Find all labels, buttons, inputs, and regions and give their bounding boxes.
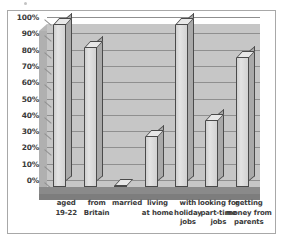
y-axis-tick-label: 20%	[22, 143, 39, 152]
x-axis-label-line: money from	[226, 209, 272, 219]
x-axis-label-7: gettingmoney fromparents	[226, 199, 272, 228]
y-axis-tick-label: 80%	[22, 46, 39, 55]
bar-front-face	[205, 120, 218, 187]
bar-chart-plot-area: 100%90%80%70%60%50%40%30%20%10%0%	[16, 17, 268, 197]
bar-6[interactable]	[205, 120, 218, 187]
bar-3[interactable]	[114, 185, 127, 187]
bar-2[interactable]	[84, 47, 97, 187]
scan-artifact-speck	[24, 2, 27, 5]
bar-front-face	[236, 57, 249, 187]
bar-side-face	[218, 109, 224, 181]
bar-side-face	[249, 46, 255, 181]
gridline-back-segment	[47, 33, 260, 34]
gridline-back-segment	[47, 50, 260, 51]
y-axis-tick-label: 60%	[22, 78, 39, 87]
bar-front-face	[175, 24, 188, 187]
gridline-back-segment	[47, 66, 260, 67]
bar-1[interactable]	[53, 24, 66, 187]
y-axis-tick-label: 50%	[22, 95, 39, 104]
x-axis-label-line: getting	[226, 199, 272, 209]
bar-5[interactable]	[175, 24, 188, 187]
bar-side-face	[97, 36, 103, 181]
y-axis-tick-label: 10%	[22, 160, 39, 169]
y-axis-tick-label: 90%	[22, 29, 39, 38]
gridline-back-segment	[47, 82, 260, 83]
y-axis-tick-label: 100%	[17, 13, 39, 22]
gridline-back-segment	[47, 99, 260, 100]
bar-side-face	[66, 13, 72, 181]
chart-frame: 100%90%80%70%60%50%40%30%20%10%0% aged19…	[7, 10, 276, 234]
y-axis-tick-label: 40%	[22, 111, 39, 120]
y-axis-tick-labels: 100%90%80%70%60%50%40%30%20%10%0%	[16, 17, 39, 197]
bar-front-face	[53, 24, 66, 187]
gridline-back-segment	[47, 17, 260, 18]
y-axis-tick-label: 30%	[22, 127, 39, 136]
bar-7[interactable]	[236, 57, 249, 187]
gridline-back-segment	[47, 115, 260, 116]
bar-front-face	[84, 47, 97, 187]
x-axis-category-labels: aged19-22fromBritainmarriedlivingat home…	[16, 199, 268, 243]
x-axis-label-line: Britain	[74, 209, 120, 219]
y-axis-tick-label: 70%	[22, 62, 39, 71]
y-axis-tick-label: 0%	[27, 176, 39, 185]
bar-side-face	[188, 13, 194, 181]
bar-front-face	[145, 136, 158, 187]
bar-4[interactable]	[145, 136, 158, 187]
x-axis-label-line: parents	[226, 218, 272, 228]
